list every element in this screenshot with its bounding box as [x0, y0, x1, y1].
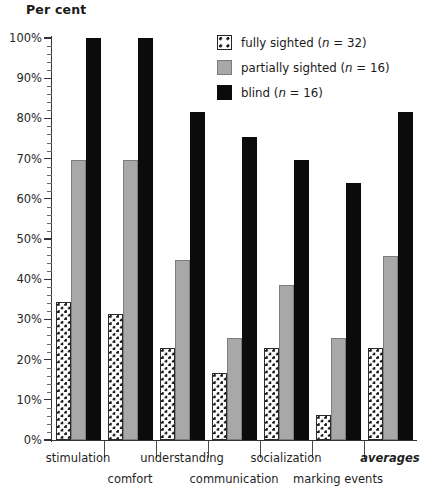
- bar-blind-understanding: [190, 112, 205, 440]
- bar-fully-understanding: [160, 348, 175, 440]
- bar-chart: Per cent 0%10%20%30%40%50%60%70%80%90%10…: [0, 0, 421, 499]
- y-tick-major: [44, 118, 52, 119]
- x-axis-label-comfort: comfort: [108, 472, 153, 486]
- bar-blind-stimulation: [86, 38, 101, 440]
- legend-item-label: fully sighted (n = 32): [241, 36, 367, 50]
- y-tick-major: [44, 399, 52, 400]
- legend-swatch-blind-icon: [217, 85, 232, 100]
- y-tick-major: [44, 279, 52, 280]
- bar-blind-marking-events: [346, 183, 361, 440]
- bar-blind-averages: [398, 112, 413, 440]
- bar-partially-comfort: [123, 160, 138, 440]
- chart-legend: fully sighted (n = 32)partially sighted …: [217, 30, 417, 105]
- bar-partially-communication: [227, 338, 242, 441]
- bar-fully-comfort: [108, 314, 123, 440]
- y-tick-major: [44, 319, 52, 320]
- y-tick-label: 30%: [2, 312, 42, 326]
- y-tick-label: 50%: [2, 232, 42, 246]
- bar-blind-socialization: [294, 160, 309, 440]
- legend-item-label: partially sighted (n = 16): [241, 61, 390, 75]
- legend-item: fully sighted (n = 32): [217, 30, 417, 55]
- x-axis-label-marking-events: marking events: [293, 472, 383, 486]
- y-tick-label: 0%: [2, 433, 42, 447]
- y-tick-label: 10%: [2, 393, 42, 407]
- bar-blind-comfort: [138, 38, 153, 440]
- y-tick-label: 40%: [2, 272, 42, 286]
- bar-partially-socialization: [279, 285, 294, 440]
- bar-partially-stimulation: [71, 160, 86, 440]
- bar-fully-socialization: [264, 348, 279, 440]
- bar-fully-marking-events: [316, 415, 331, 440]
- bar-partially-understanding: [175, 260, 190, 440]
- y-tick-label: 100%: [2, 31, 42, 45]
- y-tick-label: 80%: [2, 111, 42, 125]
- y-tick-label: 60%: [2, 192, 42, 206]
- y-tick-major: [44, 78, 52, 79]
- bar-partially-marking-events: [331, 338, 346, 441]
- x-axis-label-understanding: understanding: [140, 451, 224, 465]
- bar-fully-averages: [368, 348, 383, 440]
- legend-swatch-partially-icon: [217, 60, 232, 75]
- x-axis-line: [51, 440, 417, 441]
- y-tick-label: 20%: [2, 353, 42, 367]
- y-tick-major: [44, 37, 52, 38]
- bar-fully-communication: [212, 373, 227, 440]
- bar-blind-communication: [242, 137, 257, 440]
- bar-partially-averages: [383, 256, 398, 440]
- y-tick-major: [44, 238, 52, 239]
- x-axis-label-communication: communication: [190, 472, 279, 486]
- x-axis-label-averages: averages: [360, 451, 419, 465]
- legend-item: blind (n = 16): [217, 80, 417, 105]
- y-tick-label: 90%: [2, 71, 42, 85]
- x-axis-label-socialization: socialization: [250, 451, 321, 465]
- y-axis-title: Per cent: [26, 2, 87, 17]
- y-tick-major: [44, 158, 52, 159]
- y-tick-label: 70%: [2, 152, 42, 166]
- legend-item-label: blind (n = 16): [241, 86, 323, 100]
- y-tick-major: [44, 359, 52, 360]
- bar-fully-stimulation: [56, 302, 71, 440]
- x-axis-label-stimulation: stimulation: [46, 451, 110, 465]
- legend-swatch-fully-icon: [217, 35, 232, 50]
- legend-item: partially sighted (n = 16): [217, 55, 417, 80]
- y-tick-major: [44, 198, 52, 199]
